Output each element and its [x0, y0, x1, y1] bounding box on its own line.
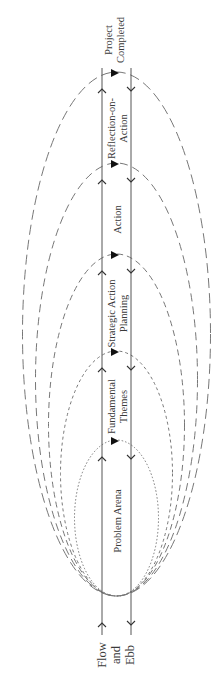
- project-completed-label: Project Completed: [103, 16, 126, 63]
- stage-label: FundamentalThemes: [106, 379, 129, 434]
- flow-and-ebb-label: Flow and Ebb: [95, 642, 137, 668]
- stage-labels: Reflection-on-ActionActionStrategic Acti…: [106, 97, 129, 552]
- stage-label-line: Problem Arena: [112, 489, 123, 553]
- stage-label-line: Themes: [118, 390, 129, 423]
- stage-label-line: Action: [118, 113, 129, 142]
- flow-label: Flow: [95, 642, 109, 668]
- stage-label-line: Strategic Action: [106, 279, 117, 348]
- ebb-label: Ebb: [123, 645, 137, 665]
- completed-label: Completed: [115, 16, 126, 63]
- direction-triangle-icon: [111, 160, 119, 168]
- direction-triangle-icon: [111, 437, 119, 445]
- and-label: and: [109, 645, 123, 664]
- stage-label-line: Fundamental: [106, 379, 117, 434]
- stage-label-line: Action: [112, 204, 123, 233]
- direction-triangle-icon: [111, 69, 119, 77]
- direction-triangle-icon: [111, 348, 119, 356]
- direction-triangle-icon: [111, 251, 119, 259]
- stage-label-line: Reflection-on-: [106, 97, 117, 159]
- stage-label: Strategic ActionPlanning: [106, 279, 129, 348]
- stage-label: Reflection-on-Action: [106, 97, 129, 159]
- stage-label-line: Planning: [118, 294, 129, 332]
- stage-label: Problem Arena: [112, 489, 123, 553]
- stage-ellipse: [61, 351, 173, 596]
- flow-and-ebb-diagram: Reflection-on-ActionActionStrategic Acti…: [0, 0, 211, 687]
- stage-label: Action: [112, 204, 123, 233]
- project-label: Project: [103, 25, 114, 55]
